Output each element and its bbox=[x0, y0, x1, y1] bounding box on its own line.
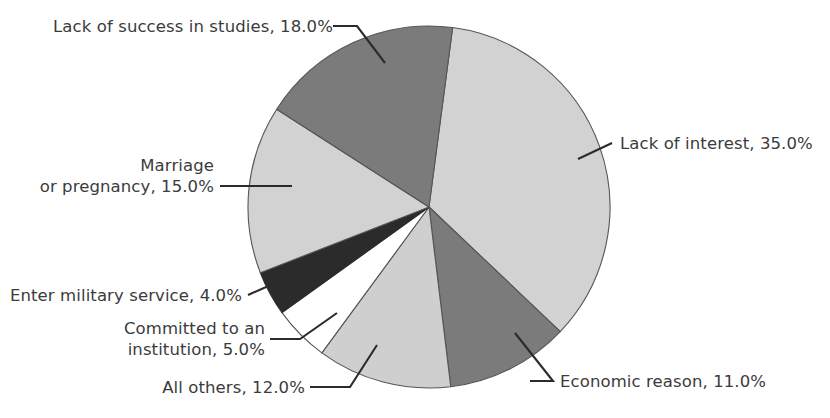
pie-chart-figure: Lack of success in studies, 18.0% Marria… bbox=[0, 0, 830, 418]
slice-label-lack-of-success-in-studies: Lack of success in studies, 18.0% bbox=[0, 16, 333, 37]
slice-label-lack-of-interest: Lack of interest, 35.0% bbox=[620, 133, 830, 154]
slice-label-line: Lack of success in studies, 18.0% bbox=[0, 16, 333, 37]
slice-label-committed-to-an-institution: Committed to an institution, 5.0% bbox=[0, 318, 265, 360]
slice-label-line: institution, 5.0% bbox=[0, 339, 265, 360]
slice-label-economic-reason: Economic reason, 11.0% bbox=[560, 371, 830, 392]
pie-slice-group bbox=[248, 26, 610, 388]
slice-label-line: All others, 12.0% bbox=[0, 377, 305, 398]
slice-label-line: Marriage bbox=[0, 155, 214, 176]
slice-label-line: Economic reason, 11.0% bbox=[560, 371, 830, 392]
slice-label-line: Committed to an bbox=[0, 318, 265, 339]
slice-label-line: Enter military service, 4.0% bbox=[0, 285, 242, 306]
slice-label-line: Lack of interest, 35.0% bbox=[620, 133, 830, 154]
slice-label-marriage-or-pregnancy: Marriage or pregnancy, 15.0% bbox=[0, 155, 214, 197]
slice-label-all-others: All others, 12.0% bbox=[0, 377, 305, 398]
slice-label-line: or pregnancy, 15.0% bbox=[0, 176, 214, 197]
slice-label-enter-military-service: Enter military service, 4.0% bbox=[0, 285, 242, 306]
